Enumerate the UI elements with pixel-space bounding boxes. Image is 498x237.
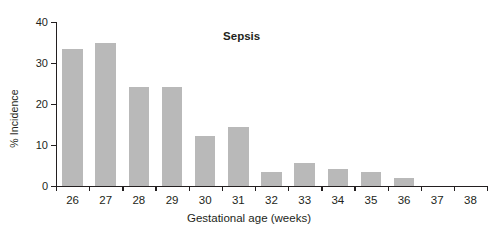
y-axis-tick-label: 30 <box>36 57 48 69</box>
x-axis-tick-label: 29 <box>166 194 179 206</box>
x-axis-tick <box>255 186 256 191</box>
y-axis-tick-label: 40 <box>36 16 48 28</box>
x-axis-tick <box>122 186 123 191</box>
x-axis-tick-label: 33 <box>298 194 311 206</box>
x-axis-tick <box>354 186 355 191</box>
y-axis-tick-label: 10 <box>36 139 48 151</box>
x-axis-tick <box>89 186 90 191</box>
x-axis-tick <box>222 186 223 191</box>
y-axis-tick <box>51 145 56 146</box>
bar <box>195 136 216 186</box>
y-axis-tick-label: 0 <box>42 180 48 192</box>
bar-chart: % Incidence Sepsis 010203040262728293031… <box>0 0 498 237</box>
x-axis-tick-label: 34 <box>331 194 344 206</box>
x-axis-tick <box>487 186 488 191</box>
bar <box>294 163 315 186</box>
y-axis-tick <box>51 63 56 64</box>
y-axis-tick <box>51 22 56 23</box>
bar <box>95 43 116 187</box>
x-axis-tick-label: 26 <box>66 194 79 206</box>
x-axis-tick-label: 30 <box>199 194 212 206</box>
y-axis-tick <box>51 104 56 105</box>
x-axis-tick <box>388 186 389 191</box>
x-axis-label: Gestational age (weeks) <box>0 212 498 224</box>
x-axis-tick-label: 38 <box>464 194 477 206</box>
x-axis-tick-label: 36 <box>398 194 411 206</box>
plot-area: Sepsis 010203040262728293031323334353637… <box>56 22 487 186</box>
bar <box>62 49 83 186</box>
bar <box>328 169 349 186</box>
x-axis-tick <box>421 186 422 191</box>
bar <box>261 172 282 186</box>
x-axis-tick-label: 31 <box>232 194 245 206</box>
x-axis-tick <box>288 186 289 191</box>
x-axis-tick-label: 28 <box>132 194 145 206</box>
bar <box>129 87 150 186</box>
x-axis-tick <box>56 186 57 191</box>
x-axis-tick-label: 27 <box>99 194 112 206</box>
x-axis-tick <box>189 186 190 191</box>
bar <box>228 127 249 186</box>
y-axis-tick-label: 20 <box>36 98 48 110</box>
x-axis-tick <box>321 186 322 191</box>
bar <box>394 178 415 186</box>
chart-title: Sepsis <box>223 30 260 42</box>
x-axis-tick-label: 32 <box>265 194 278 206</box>
bar <box>361 172 382 186</box>
bar <box>162 87 183 186</box>
x-axis-tick-label: 35 <box>365 194 378 206</box>
x-axis-tick <box>454 186 455 191</box>
y-axis-label: % Incidence <box>2 0 26 237</box>
x-axis-tick <box>155 186 156 191</box>
x-axis-tick-label: 37 <box>431 194 444 206</box>
